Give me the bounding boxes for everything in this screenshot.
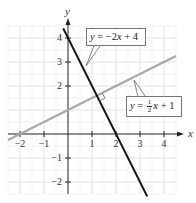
y-axis-title: y — [64, 5, 70, 17]
y-axis-arrow-icon — [66, 18, 71, 25]
callout-tail-eq1 — [86, 46, 100, 66]
x-axis-arrow-icon — [177, 132, 184, 137]
fraction-one-half: 1 2 — [147, 99, 153, 114]
eq1-rest: + 4 — [122, 32, 138, 43]
equation-label-line2: y = 1 2 x + 1 — [126, 96, 182, 117]
y-tick-label: 4 — [57, 32, 62, 43]
x-tick-label: 4 — [162, 138, 167, 149]
y-tick-label: −2 — [51, 176, 62, 187]
equation-label-line1: y = −2 x + 4 — [86, 28, 146, 46]
eq1-eq: = −2 — [95, 32, 117, 43]
y-tick-label: 3 — [57, 56, 62, 67]
x-tick-label: −1 — [39, 138, 50, 149]
x-axis-title: x — [187, 127, 193, 139]
eq2-rest: + 1 — [158, 101, 174, 112]
x-tick-label: 1 — [90, 138, 95, 149]
x-tick-label: 3 — [138, 138, 143, 149]
y-tick-label: 2 — [57, 80, 62, 91]
x-axis — [8, 131, 184, 137]
x-tick-label: −2 — [15, 138, 26, 149]
y-tick-label: −1 — [51, 152, 62, 163]
eq2-eq: = — [135, 101, 146, 112]
